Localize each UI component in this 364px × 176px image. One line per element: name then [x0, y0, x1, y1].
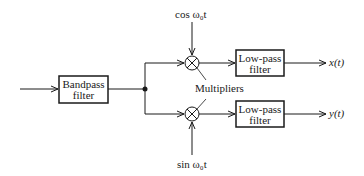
multiplier-leader-bottom: [197, 99, 206, 109]
sin-input-label: sin ω₀t: [177, 159, 207, 170]
lowpass-top-label: Low-pass filter: [236, 53, 284, 75]
lowpass-bottom-label: Low-pass filter: [236, 104, 284, 126]
output-x-label: x(t): [329, 57, 344, 68]
multiplier-leader-top: [197, 68, 206, 80]
bandpass-filter-label: Bandpass filter: [59, 79, 108, 101]
lowpass-top-line2: filter: [236, 64, 284, 75]
bandpass-line2: filter: [59, 90, 108, 101]
junction-dot: [143, 87, 148, 92]
cos-input-label: cos ω₀t: [175, 9, 207, 20]
multipliers-label: Multipliers: [195, 83, 244, 94]
diagram-canvas: [0, 0, 364, 176]
output-y-label: y(t): [329, 108, 344, 119]
lowpass-bottom-line2: filter: [236, 115, 284, 126]
